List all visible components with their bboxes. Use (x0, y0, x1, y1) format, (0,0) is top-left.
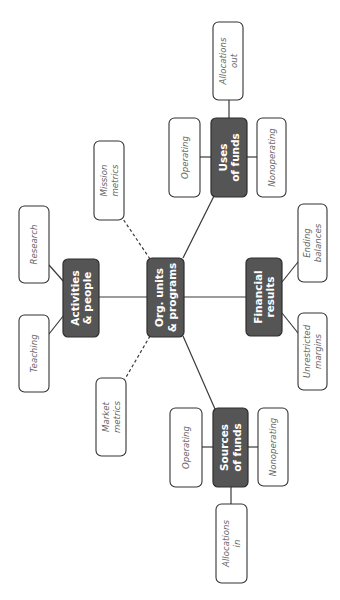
node-label-line: Operating (181, 425, 191, 469)
node-label: Operating (181, 425, 191, 469)
node-research: Research (19, 206, 49, 283)
node-alloc-out: Allocationsout (213, 22, 243, 100)
node-label-line: margins (313, 334, 323, 369)
node-label-line: Uses (217, 143, 229, 171)
node-label: Marketmetrics (101, 400, 122, 433)
node-label-line: Allocations (218, 37, 228, 85)
node-label-line: & people (81, 272, 93, 325)
concept-map: Org. units& programsActivities& peopleRe… (0, 0, 340, 600)
node-label-line: metrics (112, 400, 122, 433)
node-label-line: Activities (69, 270, 81, 325)
connector-center-sources (183, 336, 215, 409)
node-label-line: Research (29, 225, 39, 265)
connector-activities-research (49, 265, 64, 282)
node-label-line: Unrestricted (302, 324, 312, 378)
connector-activities-teaching (49, 315, 64, 334)
node-label-line: Ending (302, 228, 312, 258)
node-label-line: Market (101, 401, 111, 431)
node-src-nonoperating: Nonoperating (258, 408, 288, 486)
dashed-connector-center-market (125, 336, 150, 379)
node-layer: Org. units& programsActivities& peopleRe… (19, 22, 327, 583)
node-label-line: Operating (180, 135, 190, 179)
node-ending: Endingbalances (298, 204, 327, 282)
node-center: Org. units& programs (147, 258, 184, 337)
node-label-line: metrics (110, 164, 120, 197)
node-label-line: Financial (252, 270, 264, 323)
node-label-line: in (232, 540, 242, 548)
node-alloc-in: Allocationsin (216, 504, 247, 583)
node-uses-nonoperating: Nonoperating (257, 118, 286, 197)
node-label: Org. units& programs (153, 263, 178, 333)
node-financial: Financialresults (246, 258, 282, 336)
node-src-operating: Operating (170, 408, 202, 487)
dashed-connector-center-mission (123, 219, 150, 259)
node-label-line: & programs (166, 263, 178, 333)
node-label: Teaching (29, 334, 39, 373)
node-unrestricted: Unrestrictedmargins (298, 313, 327, 390)
node-label-line: Org. units (153, 268, 165, 327)
node-label: Nonoperating (268, 417, 278, 476)
node-label: Nonoperating (267, 128, 277, 187)
node-label: Endingbalances (302, 223, 323, 262)
node-label-line: balances (313, 223, 323, 262)
connector-center-uses (183, 196, 214, 258)
node-label: Operating (180, 135, 190, 179)
node-label: Financialresults (252, 270, 276, 323)
node-label-line: Nonoperating (268, 417, 278, 476)
node-label: Missionmetrics (99, 164, 120, 197)
node-label: Sourcesof funds (218, 423, 243, 472)
node-sources: Sourcesof funds (213, 408, 248, 487)
node-mission: Missionmetrics (94, 141, 124, 220)
connector-financial-unrestricted (282, 313, 298, 333)
node-label-line: results (264, 277, 276, 318)
node-activities: Activities& people (63, 259, 99, 337)
node-label-line: Mission (99, 165, 109, 197)
connector-financial-ending (282, 262, 298, 282)
node-label-line: Sources (218, 424, 230, 471)
node-label-line: out (229, 53, 239, 68)
node-label-line: Allocations (221, 520, 231, 568)
node-market: Marketmetrics (96, 378, 126, 456)
node-label-line: of funds (229, 133, 241, 182)
node-label: Research (29, 225, 39, 265)
node-teaching: Teaching (19, 315, 49, 392)
node-label: Activities& people (69, 270, 94, 325)
node-uses: Usesof funds (211, 118, 247, 197)
node-label-line: Nonoperating (267, 128, 277, 187)
node-label-line: of funds (231, 423, 243, 472)
node-label-line: Teaching (29, 334, 39, 373)
node-uses-operating: Operating (169, 118, 200, 197)
